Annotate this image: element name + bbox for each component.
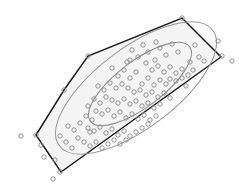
- data-point: [106, 142, 110, 146]
- scatter-plot-figure: [0, 0, 239, 192]
- data-point: [154, 114, 158, 118]
- plot-canvas: [0, 0, 239, 192]
- data-point: [100, 146, 104, 150]
- data-point: [142, 113, 146, 117]
- data-point: [51, 177, 55, 181]
- data-point: [128, 134, 132, 138]
- data-point: [158, 102, 162, 106]
- data-point: [146, 122, 150, 126]
- data-point: [152, 106, 156, 110]
- data-point: [134, 130, 138, 134]
- data-point: [168, 96, 172, 100]
- data-point: [184, 84, 188, 88]
- data-point: [122, 129, 126, 133]
- data-point: [19, 134, 23, 138]
- convex-hull-polygon: [36, 18, 221, 172]
- hull-layer: [36, 18, 221, 172]
- data-point: [112, 138, 116, 142]
- data-point: [140, 126, 144, 130]
- data-point: [42, 155, 46, 159]
- data-point: [116, 133, 120, 137]
- data-point: [230, 59, 234, 63]
